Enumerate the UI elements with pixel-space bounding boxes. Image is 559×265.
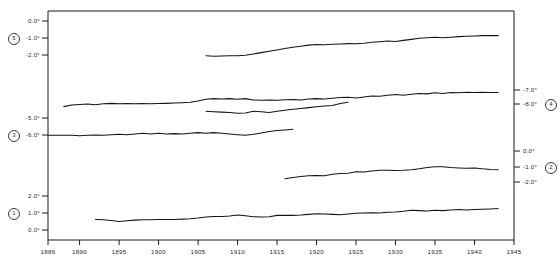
x-axis-tick-label: 1905 [184,248,212,255]
series-line-1 [95,209,498,222]
chart-plot-area [0,0,559,265]
chart-figure: 0.0°-1.0°-2.0°-5.0°-6.0°2.0°1.0°0.0° -7.… [0,0,559,265]
series-line-3 [64,92,498,106]
x-axis-ticks [48,240,514,245]
right-axis-tick-label: -2.0° [523,178,537,185]
right-axis-tick-label: -1.0° [523,163,537,170]
left-axis-tick-label: 1.0° [28,209,40,216]
x-axis-tick-label: 1910 [224,248,252,255]
x-axis-tick-label: 1920 [303,248,331,255]
x-axis-tick-label: 1900 [145,248,173,255]
right-axis-tick-label: 0.0° [523,147,535,154]
series-marker-2: 2 [545,162,557,174]
series-marker-5: 5 [8,33,20,45]
left-axis-tick-label: 0.0° [28,17,40,24]
right-axis-ticks [514,90,520,182]
x-axis-tick-label: 1935 [421,248,449,255]
data-series-layer [48,36,498,222]
axis-frame [48,11,514,240]
right-axis-tick-label: -8.0° [523,100,537,107]
series-line-5 [206,36,498,57]
x-axis-tick-label: 1890 [66,248,94,255]
x-axis-tick-label: 1940 [461,248,489,255]
x-axis-tick-label: 1930 [382,248,410,255]
left-axis-tick-label: -2.0° [26,51,40,58]
series-line-6-series-unlabeled [48,129,293,135]
x-axis-tick-label: 1895 [105,248,133,255]
series-line-4 [206,102,348,113]
series-marker-1: 1 [8,208,20,220]
left-axis-tick-label: -6.0° [26,131,40,138]
left-axis-tick-label: 2.0° [28,192,40,199]
left-axis-tick-label: -1.0° [26,34,40,41]
x-axis-tick-label: 1945 [500,248,528,255]
series-marker-3: 3 [8,130,20,142]
left-axis-tick-label: 0.0° [28,226,40,233]
right-axis-tick-label: -7.0° [523,86,537,93]
left-axis-tick-label: -5.0° [26,114,40,121]
series-line-2 [285,167,498,179]
x-axis-tick-label: 1925 [342,248,370,255]
x-axis-tick-label: 1886 [34,248,62,255]
series-marker-4: 4 [545,99,557,111]
left-axis-ticks [42,21,48,230]
x-axis-tick-label: 1915 [263,248,291,255]
